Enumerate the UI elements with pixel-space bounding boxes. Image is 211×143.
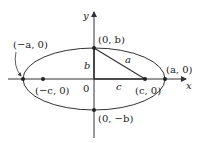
left-focus-point — [41, 77, 45, 81]
top-vertex-label: (0, b) — [98, 34, 125, 45]
segment-b-label: b — [84, 60, 90, 71]
left-focus-label: (−c, 0) — [35, 85, 70, 96]
right-vertex-label: (a, 0) — [166, 64, 193, 75]
segment-a-label: a — [125, 54, 131, 65]
left-vertex-pointer-arrow — [15, 52, 21, 76]
origin-label: 0 — [83, 83, 89, 94]
bottom-vertex-label: (0, −b) — [98, 113, 133, 124]
y-axis-label: y — [82, 10, 89, 21]
ellipse-diagram: y x (0, b) (0, −b) (−a, 0) (a, 0) (−c, 0… — [0, 0, 211, 143]
bottom-vertex-point — [92, 108, 96, 112]
left-vertex-point — [21, 77, 25, 81]
x-axis-label: x — [186, 80, 192, 91]
left-vertex-label: (−a, 0) — [13, 39, 48, 50]
right-vertex-point — [163, 77, 167, 81]
segment-c-label: c — [116, 81, 122, 92]
segment-a — [94, 48, 145, 79]
top-vertex-point — [92, 46, 96, 50]
right-focus-point — [143, 77, 147, 81]
right-focus-label: (c, 0) — [135, 85, 161, 96]
